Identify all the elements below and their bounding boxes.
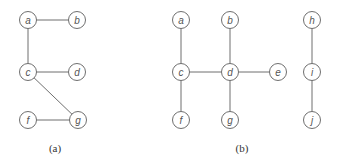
node-label: b — [74, 15, 80, 26]
node-label: h — [309, 15, 315, 26]
node-a-f: f — [20, 112, 37, 129]
node-b-d: d — [222, 64, 239, 81]
captions-layer: (a)(b) — [49, 142, 249, 155]
node-b-b: b — [222, 12, 239, 29]
node-label: a — [178, 15, 184, 26]
node-a-d: d — [69, 64, 86, 81]
node-label: g — [75, 115, 81, 126]
node-label: d — [74, 67, 80, 78]
node-b-i: i — [304, 64, 321, 81]
caption-a: (a) — [49, 142, 62, 155]
node-a-b: b — [69, 12, 86, 29]
caption-b: (b) — [236, 142, 249, 155]
node-b-e: e — [270, 64, 287, 81]
edge-a-c-g — [28, 72, 78, 120]
node-a-a: a — [20, 12, 37, 29]
node-label: g — [227, 115, 233, 126]
node-a-g: g — [70, 112, 87, 129]
node-label: d — [227, 67, 233, 78]
node-label: c — [26, 67, 31, 78]
node-b-g: g — [222, 112, 239, 129]
node-label: c — [179, 67, 184, 78]
graph-diagram-canvas: abcdfgabcdefghij (a)(b) — [0, 0, 337, 162]
node-b-j: j — [304, 112, 321, 129]
node-b-a: a — [173, 12, 190, 29]
nodes-layer: abcdfgabcdefghij — [20, 12, 321, 129]
node-b-h: h — [304, 12, 321, 29]
node-label: b — [227, 15, 233, 26]
node-b-c: c — [173, 64, 190, 81]
node-a-c: c — [20, 64, 37, 81]
node-b-f: f — [173, 112, 190, 129]
node-label: a — [25, 15, 31, 26]
node-label: e — [275, 67, 281, 78]
